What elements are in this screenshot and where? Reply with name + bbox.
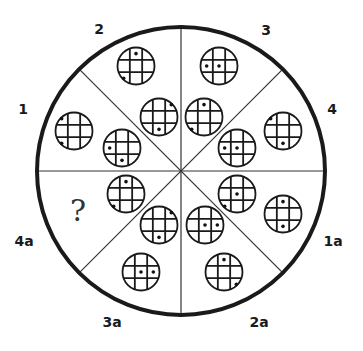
dot [222, 258, 226, 262]
grid-circle-1-outer [56, 113, 93, 150]
segment-label-1: 1 [18, 101, 28, 117]
dot [139, 270, 143, 274]
dot [124, 180, 128, 184]
segment-label-4a: 4a [14, 233, 33, 249]
grid-circle-3-inner [186, 99, 223, 136]
dot [157, 128, 161, 132]
grid-circle-4a-inner [108, 176, 145, 213]
grid-circle-3a-inner [141, 207, 178, 244]
dot [217, 64, 221, 68]
dot [157, 236, 161, 240]
grid-circle-4-outer [265, 113, 302, 150]
puzzle-canvas [0, 0, 363, 351]
grid-circle-2a-inner [187, 207, 224, 244]
dot [281, 142, 285, 146]
dot [134, 52, 138, 56]
segment-label-2: 2 [94, 21, 104, 37]
grid-circle-1a-outer [265, 196, 302, 233]
dot [235, 192, 239, 196]
grid-circle-1-inner [104, 130, 141, 167]
dot [202, 103, 206, 107]
dot [112, 205, 116, 209]
dot [235, 283, 239, 287]
dot [152, 270, 156, 274]
dot [170, 103, 174, 107]
dot [235, 146, 239, 150]
dot [281, 225, 285, 229]
dot [60, 117, 64, 121]
dot [205, 64, 209, 68]
segment-label-3a: 3a [102, 314, 121, 330]
dot [190, 128, 194, 132]
segment-label-1a: 1a [323, 233, 342, 249]
dot [269, 117, 273, 121]
segment-label-2a: 2a [249, 314, 268, 330]
segment-label-4: 4 [327, 101, 337, 117]
segment-label-3: 3 [261, 22, 271, 38]
dot [281, 200, 285, 204]
dot [223, 205, 227, 209]
dot [60, 142, 64, 146]
dot [170, 211, 174, 215]
grid-circle-2-inner [141, 99, 178, 136]
grid-circle-2a-outer [206, 254, 243, 291]
question-mark: ? [70, 193, 86, 228]
grid-circle-3a-outer [123, 254, 160, 291]
puzzle-diagram: 23144a1a3a2a ? [0, 0, 363, 351]
dot [223, 146, 227, 150]
grid-circle-1a-inner [219, 176, 256, 213]
dot [122, 77, 126, 81]
dot [120, 159, 124, 163]
dot [108, 146, 112, 150]
grid-circle-2-outer [118, 48, 155, 85]
dot [216, 223, 220, 227]
grid-circle-4-inner [219, 130, 256, 167]
grid-circle-3-outer [201, 48, 238, 85]
dot [203, 223, 207, 227]
